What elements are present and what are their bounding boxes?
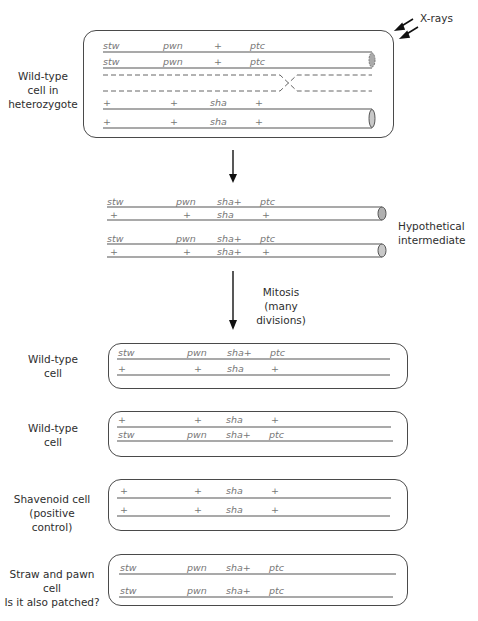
label-line: Wild-type: [2, 69, 84, 83]
xray-arrows-icon: [396, 19, 418, 38]
allele: sha: [210, 116, 227, 127]
allele: pwn: [187, 347, 207, 358]
allele: stw: [107, 233, 123, 244]
allele: +: [194, 485, 202, 496]
allele: +: [120, 485, 128, 496]
cell-box-wild-type-2: [108, 411, 408, 457]
cell-box-wild-type-1: [108, 343, 408, 389]
allele: +: [170, 97, 178, 108]
label-line: Wild-type: [20, 352, 86, 366]
cell-box-shavenoid: [108, 479, 408, 531]
allele: +: [110, 246, 118, 257]
allele: sha: [226, 485, 243, 496]
allele: +: [170, 116, 178, 127]
allele: +: [255, 116, 263, 127]
allele: ptc: [269, 429, 284, 440]
arrow-down-1-icon: [229, 150, 237, 183]
allele: pwn: [176, 196, 196, 207]
allele: sha+: [217, 196, 242, 207]
allele: +: [118, 414, 126, 425]
allele: +: [271, 363, 279, 374]
allele: +: [271, 414, 279, 425]
label-line: cell: [20, 435, 86, 449]
allele: stw: [120, 562, 136, 573]
allele: +: [214, 56, 222, 67]
allele: +: [120, 504, 128, 515]
mitosis-subtitle: (many divisions): [240, 299, 322, 327]
allele: ptc: [270, 347, 285, 358]
heterozygote-cell-box: [83, 30, 394, 138]
allele: sha+: [217, 233, 242, 244]
allele: sha+: [226, 585, 251, 596]
cell-label-wild-type-2: Wild-type cell: [20, 421, 86, 449]
allele: +: [183, 246, 191, 257]
allele: sha: [227, 363, 244, 374]
allele: pwn: [187, 585, 207, 596]
label-line: Wild-type: [20, 421, 86, 435]
label-line: heterozygote: [2, 97, 84, 111]
allele: ptc: [260, 233, 275, 244]
allele: ptc: [269, 562, 284, 573]
label-line: Straw and pawn cell: [2, 567, 102, 595]
mitosis-title: Mitosis: [240, 285, 322, 299]
allele: sha: [210, 97, 227, 108]
allele: stw: [118, 347, 134, 358]
arrow-down-2-icon: [229, 271, 237, 330]
label-line: Hypothetical: [398, 219, 478, 233]
allele: sha: [217, 209, 234, 220]
allele: sha: [226, 504, 243, 515]
intermediate-chromosomes: [107, 207, 382, 257]
allele: +: [110, 209, 118, 220]
allele: +: [103, 97, 111, 108]
mitosis-label: Mitosis (many divisions): [240, 285, 322, 327]
allele: stw: [118, 429, 134, 440]
label-line: Shavenoid cell: [8, 492, 96, 506]
cell-label-wild-type-1: Wild-type cell: [20, 352, 86, 380]
allele: pwn: [176, 233, 196, 244]
centromere-icon: [378, 207, 386, 220]
allele: ptc: [250, 40, 265, 51]
allele: +: [255, 97, 263, 108]
allele: sha+: [217, 246, 242, 257]
allele: pwn: [163, 40, 183, 51]
allele: sha+: [226, 429, 251, 440]
allele: sha+: [226, 562, 251, 573]
allele: stw: [103, 56, 119, 67]
allele: ptc: [250, 56, 265, 67]
allele: +: [194, 363, 202, 374]
allele: ptc: [260, 196, 275, 207]
allele: +: [183, 209, 191, 220]
xrays-label: X-rays: [420, 11, 453, 25]
allele: +: [194, 504, 202, 515]
allele: pwn: [187, 429, 207, 440]
intermediate-label: Hypothetical intermediate: [398, 219, 478, 247]
allele: pwn: [187, 562, 207, 573]
label-line: intermediate: [398, 233, 478, 247]
allele: +: [262, 209, 270, 220]
allele: +: [118, 363, 126, 374]
allele: +: [194, 414, 202, 425]
allele: +: [262, 246, 270, 257]
centromere-icon: [378, 244, 386, 257]
allele: +: [271, 485, 279, 496]
heterozygote-label: Wild-type cell in heterozygote: [2, 69, 84, 111]
cell-box-straw-pawn: [108, 554, 408, 606]
allele: +: [214, 40, 222, 51]
allele: stw: [103, 40, 119, 51]
label-line: cell in: [2, 83, 84, 97]
label-line: cell: [20, 366, 86, 380]
allele: +: [271, 504, 279, 515]
label-line: (positive control): [8, 506, 96, 534]
cell-label-straw-pawn: Straw and pawn cell Is it also patched?: [2, 567, 102, 609]
allele: stw: [120, 585, 136, 596]
allele: sha+: [227, 347, 252, 358]
cell-label-shavenoid: Shavenoid cell (positive control): [8, 492, 96, 534]
allele: sha: [226, 414, 243, 425]
label-line: Is it also patched?: [2, 595, 102, 609]
allele: ptc: [269, 585, 284, 596]
allele: stw: [107, 196, 123, 207]
allele: +: [103, 116, 111, 127]
allele: pwn: [163, 56, 183, 67]
